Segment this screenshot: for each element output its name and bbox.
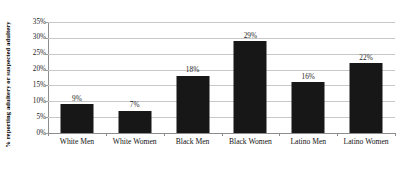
y-tick-label: 5% <box>20 113 46 121</box>
bar-value-label: 7% <box>130 101 140 109</box>
x-axis-category-label: White Men <box>48 137 106 147</box>
bar <box>292 82 325 133</box>
bar-value-label: 16% <box>302 73 315 81</box>
y-axis-title: % reporting adultery or suspected adulte… <box>0 0 14 169</box>
bar-group: 29% <box>222 22 280 133</box>
bar-group: 9% <box>48 22 106 133</box>
y-tick-label: 0% <box>20 129 46 137</box>
x-axis-category-label: Latino Women <box>337 137 395 147</box>
x-axis-category-label: Black Men <box>164 137 222 147</box>
x-tick-mark <box>222 133 223 136</box>
y-tick-label: 25% <box>20 49 46 57</box>
y-tick-label: 15% <box>20 81 46 89</box>
y-tick-label: 10% <box>20 97 46 105</box>
bar <box>350 63 383 133</box>
y-tick-label: 35% <box>20 18 46 26</box>
x-tick-mark <box>337 133 338 136</box>
x-axis-category-label: Latino Men <box>279 137 337 147</box>
y-tick-label: 20% <box>20 65 46 73</box>
x-tick-mark <box>395 133 396 136</box>
bar-value-label: 22% <box>359 54 372 62</box>
x-axis-category-label: White Women <box>106 137 164 147</box>
bar <box>234 41 267 133</box>
bar-group: 7% <box>106 22 164 133</box>
x-tick-mark <box>106 133 107 136</box>
x-axis-category-label: Black Women <box>222 137 280 147</box>
bar <box>118 111 151 133</box>
y-tick-label: 30% <box>20 33 46 41</box>
bar-group: 16% <box>279 22 337 133</box>
x-tick-mark <box>279 133 280 136</box>
y-axis-ticks: 35%30%25%20%15%10%5%0% <box>16 0 46 169</box>
bar <box>60 104 93 133</box>
bar-group: 22% <box>337 22 395 133</box>
x-tick-mark <box>164 133 165 136</box>
bar <box>176 76 209 133</box>
bar-value-label: 29% <box>244 32 257 40</box>
bars-layer: 9%7%18%29%16%22% <box>48 22 395 133</box>
plot-area: 9%7%18%29%16%22% <box>48 22 395 133</box>
bar-chart: % reporting adultery or suspected adulte… <box>0 0 401 169</box>
x-tick-mark <box>48 133 49 136</box>
bar-value-label: 18% <box>186 66 199 74</box>
bar-group: 18% <box>164 22 222 133</box>
x-axis-labels: White MenWhite WomenBlack MenBlack Women… <box>48 137 395 155</box>
bar-value-label: 9% <box>72 95 82 103</box>
